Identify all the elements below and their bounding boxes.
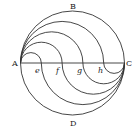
curve-through-g — [21, 32, 125, 84]
label-f: f — [55, 66, 61, 75]
diagram-canvas: B D A C e f g h — [0, 0, 140, 129]
label-d: D — [70, 119, 76, 128]
curve-through-e — [21, 53, 125, 105]
label-g: g — [77, 66, 82, 75]
label-e: e — [35, 66, 40, 75]
label-c: C — [126, 59, 132, 68]
label-h: h — [98, 66, 103, 75]
label-a: A — [11, 59, 18, 68]
label-b: B — [70, 2, 76, 11]
